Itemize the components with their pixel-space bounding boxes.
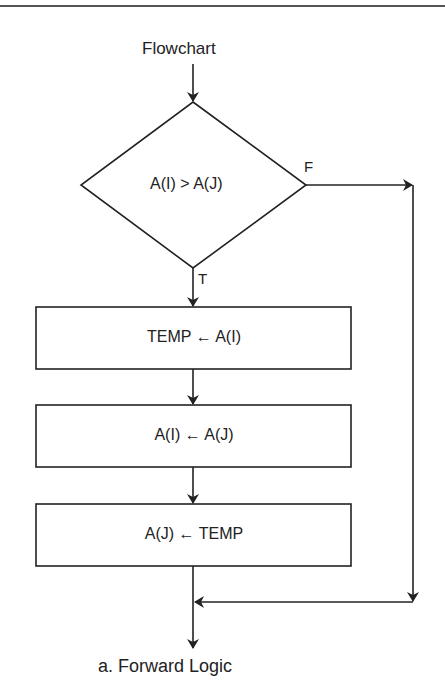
false-label: F xyxy=(304,158,313,175)
figure-caption: a. Forward Logic xyxy=(98,656,232,677)
decision-condition: A(I) > A(J) xyxy=(150,175,222,193)
flowchart-title: Flowchart xyxy=(142,39,216,59)
flowchart-canvas xyxy=(0,0,445,699)
process-step-3-label: A(J) ← TEMP xyxy=(37,525,351,543)
process-step-2-label: A(I) ← A(J) xyxy=(37,426,351,444)
true-label: T xyxy=(198,270,207,287)
process-step-1-label: TEMP ← A(I) xyxy=(37,328,351,346)
